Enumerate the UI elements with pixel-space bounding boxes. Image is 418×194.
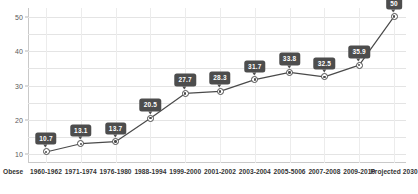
- data-point-label: 50: [386, 0, 402, 10]
- data-point-label: 20.5: [140, 99, 161, 112]
- plot-area: 1020304050 10.713.113.720.527.728.331.73…: [28, 8, 406, 163]
- data-point-marker-center: [254, 78, 256, 80]
- series-name-label: Obese: [3, 168, 23, 175]
- data-point-label: 13.1: [70, 124, 91, 137]
- x-axis-category-label: 1999-2000: [169, 168, 201, 175]
- y-axis-tick-label: 40: [15, 48, 23, 55]
- data-point-marker-center: [80, 143, 82, 145]
- data-point-marker-center: [323, 76, 325, 78]
- x-axis-category-label: 1988-1994: [134, 168, 166, 175]
- data-point-label: 35.9: [348, 46, 369, 59]
- x-axis-category-label: 2003-2004: [239, 168, 271, 175]
- x-axis-category-label: Projected 2030: [370, 168, 417, 175]
- data-point-label: 13.7: [105, 122, 126, 135]
- y-axis-tick-label: 30: [15, 82, 23, 89]
- data-point-label: 31.7: [244, 60, 265, 73]
- y-axis-tick-label: 10: [15, 151, 23, 158]
- x-axis-category-label: 2007-2008: [308, 168, 340, 175]
- x-axis-category-label: 2005-5006: [274, 168, 306, 175]
- x-axis-category-label: 1960-1962: [30, 168, 62, 175]
- y-axis-tick-label: 20: [15, 116, 23, 123]
- data-point-label: 27.7: [174, 74, 195, 87]
- data-point-marker-center: [288, 71, 290, 73]
- data-point-marker-center: [393, 15, 395, 17]
- x-axis-category-label: 1976-1980: [100, 168, 132, 175]
- y-axis-tick-label: 50: [15, 13, 23, 20]
- data-point-marker-center: [219, 90, 221, 92]
- x-axis-category-label: 2001-2002: [204, 168, 236, 175]
- x-axis-categories: Obese 1960-19621971-19741976-19801988-19…: [0, 168, 414, 184]
- data-point-label: 32.5: [314, 57, 335, 70]
- x-axis-category-label: 1971-1974: [65, 168, 97, 175]
- data-point-label: 10.7: [35, 132, 56, 145]
- data-point-label: 28.3: [209, 72, 230, 85]
- data-point-marker-center: [114, 140, 116, 142]
- data-point-label: 33.8: [279, 53, 300, 66]
